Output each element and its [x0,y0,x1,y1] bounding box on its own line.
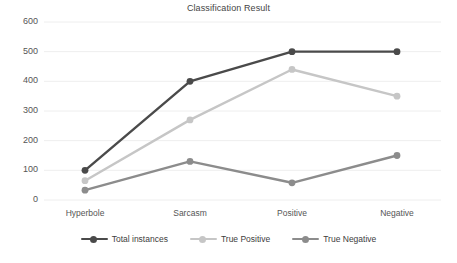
data-point [82,167,89,174]
x-tick-label-sarcasm: Sarcasm [173,208,207,218]
y-tick-label: 200 [2,135,38,145]
x-tick-label-positive: Positive [277,208,307,218]
legend-label: True Negative [323,234,376,244]
legend-swatch-icon [190,234,217,244]
data-point [394,152,401,159]
data-point [187,158,194,165]
data-point [289,179,296,186]
data-point [394,48,401,55]
data-point [289,48,296,55]
data-point [187,78,194,85]
legend-swatch-icon [81,234,108,244]
x-tick-label-hyperbole: Hyperbole [66,208,105,218]
legend-item-1[interactable]: True Positive [190,234,270,244]
chart-plot-area [0,0,457,263]
y-tick-label: 400 [2,75,38,85]
legend-swatch-icon [292,234,319,244]
data-point [394,93,401,100]
x-tick-label-negative: Negative [380,208,414,218]
legend-label: True Positive [221,234,270,244]
legend-item-2[interactable]: True Negative [292,234,376,244]
legend-item-0[interactable]: Total instances [81,234,168,244]
classification-result-chart: Classification Result 600500400300200100… [0,0,457,263]
data-point [187,117,194,124]
legend-label: Total instances [112,234,168,244]
series-lines-group [85,52,397,191]
data-point [289,66,296,73]
y-tick-label: 300 [2,105,38,115]
y-tick-label: 100 [2,164,38,174]
chart-legend: Total instancesTrue PositiveTrue Negativ… [0,234,457,244]
series-line-2 [85,156,397,191]
y-tick-label: 600 [2,16,38,26]
series-line-1 [85,69,397,180]
data-point [82,187,89,194]
y-tick-label: 500 [2,46,38,56]
data-point [82,177,89,184]
y-tick-label: 0 [2,194,38,204]
